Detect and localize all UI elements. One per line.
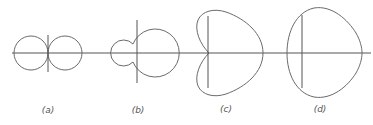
panel-c: (c): [197, 10, 263, 114]
label-d: (d): [314, 104, 327, 114]
panel-a: (a): [14, 35, 82, 115]
label-c: (c): [220, 104, 232, 114]
panel-d: (d): [287, 8, 362, 114]
panel-b: (b): [111, 20, 180, 115]
label-a: (a): [42, 105, 55, 115]
polar-pattern-diagram: (a) (b) (c) (d): [0, 0, 373, 125]
label-b: (b): [132, 105, 145, 115]
